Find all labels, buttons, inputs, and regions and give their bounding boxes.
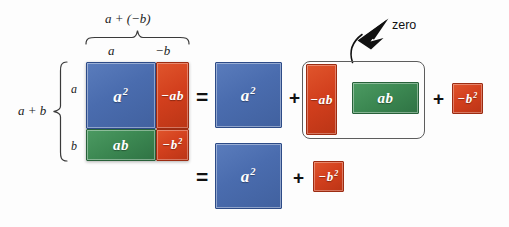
top-row-negative-ab-tile: −ab — [306, 64, 337, 135]
top-sum-label: a + (−b) — [105, 12, 151, 25]
grid-cell-negative-b-squared-label: −b2 — [162, 138, 182, 151]
algebra-tiles-figure: a + (−b) a −b a + b a b a2 −ab ab −b2 = … — [0, 0, 509, 227]
bottom-row-plus: + — [293, 168, 304, 187]
grid-cell-ab: ab — [86, 129, 156, 161]
bottom-row-negative-b-squared-tile: −b2 — [313, 161, 344, 192]
grid-cell-negative-ab-label: −ab — [161, 89, 184, 103]
top-row-ab-label: ab — [378, 91, 394, 106]
grid-cell-a-squared-label: a2 — [113, 87, 128, 105]
top-row-negative-b-squared-label: −b2 — [457, 92, 477, 105]
bottom-row-negative-b-squared-label: −b2 — [318, 170, 338, 183]
top-row-plus-2: + — [433, 89, 444, 108]
top-part-a-label: a — [108, 44, 115, 57]
left-brace — [54, 62, 68, 161]
left-sum-label: a + b — [18, 104, 46, 117]
top-brace — [86, 31, 189, 45]
top-row-equals: = — [196, 86, 208, 107]
grid-cell-negative-b-squared: −b2 — [156, 129, 189, 161]
top-row-plus-1: + — [289, 88, 300, 107]
grid-cell-ab-label: ab — [113, 138, 129, 153]
top-row-negative-ab-label: −ab — [310, 93, 333, 107]
zero-annotation-label: zero — [392, 19, 416, 32]
bottom-row-equals: = — [196, 166, 208, 187]
left-part-a-label: a — [71, 83, 77, 95]
grid-cell-negative-ab: −ab — [156, 62, 189, 129]
left-part-b-label: b — [71, 140, 77, 152]
top-part-neg-b-label: −b — [155, 44, 170, 57]
bottom-row-a-squared-label: a2 — [241, 167, 256, 185]
area-model-grid: a2 −ab ab −b2 — [86, 62, 189, 161]
top-row-a-squared-label: a2 — [241, 86, 256, 104]
bottom-row-a-squared-tile: a2 — [215, 143, 282, 209]
grid-cell-a-squared: a2 — [86, 62, 156, 129]
zero-arrow — [351, 19, 388, 63]
top-row-negative-b-squared-tile: −b2 — [452, 83, 483, 114]
top-row-ab-tile: ab — [352, 82, 419, 114]
top-row-a-squared-tile: a2 — [215, 62, 282, 128]
